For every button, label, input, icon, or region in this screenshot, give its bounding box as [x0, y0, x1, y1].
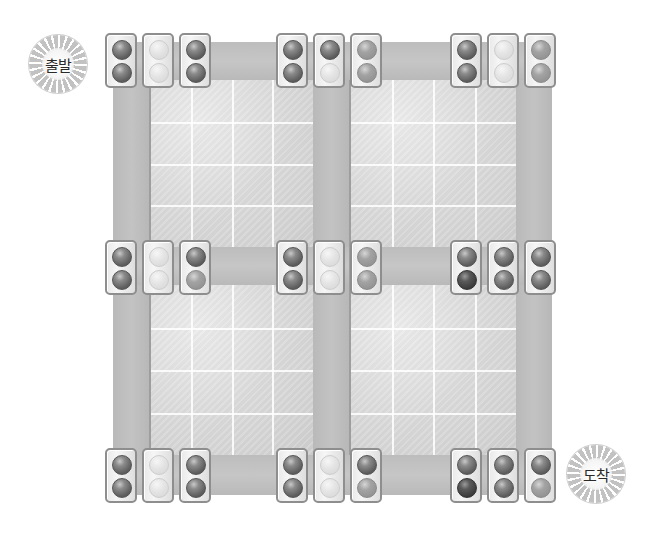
signal-lamp-bottom-icon — [457, 63, 477, 83]
signal-lamp-top-icon — [494, 455, 514, 475]
traffic-signal-top-middle-3 — [350, 33, 382, 88]
traffic-signal-middle-middle-3 — [350, 240, 382, 295]
traffic-signal-top-middle-2 — [313, 33, 345, 88]
signal-lamp-top-icon — [186, 247, 206, 267]
traffic-signal-middle-middle-1 — [276, 240, 308, 295]
signal-lamp-bottom-icon — [112, 270, 132, 290]
traffic-signal-bottom-left-3 — [179, 448, 211, 503]
traffic-signal-middle-middle-2 — [313, 240, 345, 295]
signal-lamp-top-icon — [112, 455, 132, 475]
grid-line — [475, 80, 477, 247]
signal-lamp-bottom-icon — [283, 270, 303, 290]
traffic-signal-bottom-right-2 — [487, 448, 519, 503]
signal-lamp-top-icon — [149, 455, 169, 475]
signal-lamp-top-icon — [531, 247, 551, 267]
traffic-signal-middle-left-1 — [105, 240, 137, 295]
signal-lamp-bottom-icon — [457, 270, 477, 290]
traffic-signal-middle-left-3 — [179, 240, 211, 295]
signal-lamp-bottom-icon — [531, 270, 551, 290]
signal-lamp-bottom-icon — [186, 63, 206, 83]
traffic-signal-bottom-right-3 — [524, 448, 556, 503]
signal-lamp-top-icon — [357, 455, 377, 475]
signal-lamp-bottom-icon — [320, 478, 340, 498]
start-badge: 출발 — [29, 35, 87, 93]
grid-line — [150, 413, 313, 415]
signal-lamp-bottom-icon — [531, 63, 551, 83]
signal-lamp-bottom-icon — [357, 63, 377, 83]
traffic-signal-middle-left-2 — [142, 240, 174, 295]
signal-lamp-top-icon — [186, 455, 206, 475]
traffic-signal-bottom-right-1 — [450, 448, 482, 503]
traffic-signal-top-left-3 — [179, 33, 211, 88]
signal-lamp-bottom-icon — [457, 478, 477, 498]
signal-lamp-top-icon — [457, 247, 477, 267]
grid-line — [350, 164, 516, 166]
signal-lamp-bottom-icon — [112, 63, 132, 83]
traffic-signal-middle-right-1 — [450, 240, 482, 295]
signal-lamp-top-icon — [531, 455, 551, 475]
signal-lamp-top-icon — [149, 40, 169, 60]
grid-line — [150, 205, 313, 207]
signal-lamp-top-icon — [457, 40, 477, 60]
signal-lamp-bottom-icon — [494, 270, 514, 290]
traffic-signal-top-right-3 — [524, 33, 556, 88]
signal-lamp-top-icon — [320, 40, 340, 60]
grid-line — [150, 164, 313, 166]
signal-lamp-bottom-icon — [531, 478, 551, 498]
signal-lamp-top-icon — [494, 247, 514, 267]
traffic-signal-middle-right-3 — [524, 240, 556, 295]
signal-lamp-bottom-icon — [320, 63, 340, 83]
traffic-signal-bottom-middle-2 — [313, 448, 345, 503]
traffic-signal-top-left-2 — [142, 33, 174, 88]
signal-lamp-top-icon — [320, 247, 340, 267]
end-badge: 도착 — [567, 445, 625, 503]
signal-lamp-top-icon — [112, 40, 132, 60]
grid-line — [150, 370, 313, 372]
signal-lamp-bottom-icon — [357, 478, 377, 498]
traffic-signal-top-middle-1 — [276, 33, 308, 88]
signal-lamp-top-icon — [283, 455, 303, 475]
traffic-signal-bottom-left-2 — [142, 448, 174, 503]
traffic-signal-top-left-1 — [105, 33, 137, 88]
signal-lamp-top-icon — [531, 40, 551, 60]
signal-lamp-bottom-icon — [357, 270, 377, 290]
signal-lamp-bottom-icon — [186, 270, 206, 290]
traffic-signal-middle-right-2 — [487, 240, 519, 295]
signal-lamp-bottom-icon — [149, 270, 169, 290]
signal-lamp-top-icon — [112, 247, 132, 267]
signal-lamp-top-icon — [283, 247, 303, 267]
grid-line — [272, 80, 274, 247]
signal-lamp-top-icon — [457, 455, 477, 475]
signal-lamp-bottom-icon — [149, 63, 169, 83]
signal-lamp-bottom-icon — [494, 63, 514, 83]
signal-lamp-top-icon — [494, 40, 514, 60]
signal-lamp-top-icon — [149, 247, 169, 267]
signal-lamp-top-icon — [320, 455, 340, 475]
end-label: 도착 — [567, 445, 625, 503]
signal-lamp-bottom-icon — [494, 478, 514, 498]
traffic-signal-top-right-1 — [450, 33, 482, 88]
signal-lamp-bottom-icon — [112, 478, 132, 498]
grid-line — [272, 285, 274, 455]
grid-line — [350, 413, 516, 415]
signal-lamp-top-icon — [357, 247, 377, 267]
grid-line — [350, 370, 516, 372]
signal-lamp-top-icon — [283, 40, 303, 60]
grid-line — [350, 205, 516, 207]
signal-lamp-top-icon — [186, 40, 206, 60]
signal-lamp-bottom-icon — [186, 478, 206, 498]
start-label: 출발 — [29, 35, 87, 93]
traffic-signal-bottom-middle-1 — [276, 448, 308, 503]
signal-lamp-top-icon — [357, 40, 377, 60]
signal-lamp-bottom-icon — [320, 270, 340, 290]
signal-lamp-bottom-icon — [283, 63, 303, 83]
signal-lamp-bottom-icon — [149, 478, 169, 498]
road-map-diagram: 출발 도착 — [0, 0, 657, 533]
signal-lamp-bottom-icon — [283, 478, 303, 498]
traffic-signal-top-right-2 — [487, 33, 519, 88]
traffic-signal-bottom-left-1 — [105, 448, 137, 503]
grid-line — [475, 285, 477, 455]
traffic-signal-bottom-middle-3 — [350, 448, 382, 503]
